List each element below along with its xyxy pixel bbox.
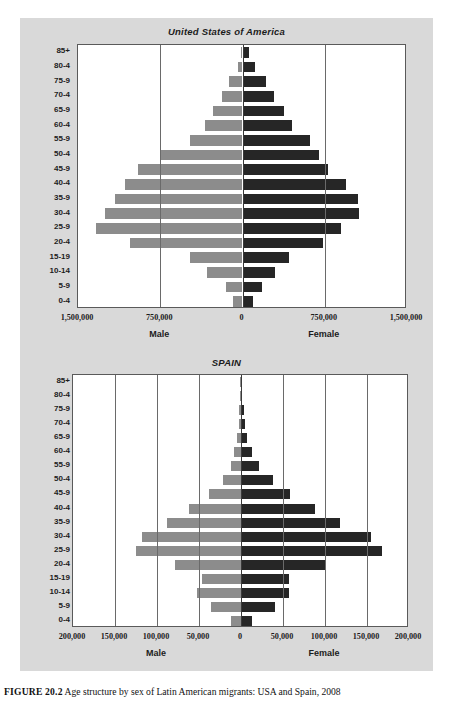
pyramid-row bbox=[78, 62, 405, 73]
value-tick-label: 150,000 bbox=[353, 632, 380, 641]
pyramid-row bbox=[73, 489, 407, 499]
pyramid-row bbox=[73, 574, 407, 584]
age-group-label: 75-9 bbox=[54, 405, 70, 413]
female-bar bbox=[243, 164, 329, 175]
female-bar bbox=[243, 238, 323, 249]
spain-sex-legend: MaleFemale bbox=[72, 648, 408, 662]
female-bar bbox=[241, 574, 289, 584]
female-bar bbox=[243, 106, 285, 117]
female-bar bbox=[243, 120, 292, 131]
male-legend-label: Male bbox=[149, 329, 169, 339]
age-group-label: 70-4 bbox=[54, 419, 70, 427]
male-bar bbox=[213, 106, 242, 117]
male-bar bbox=[231, 461, 241, 471]
pyramid-row bbox=[78, 208, 405, 219]
female-bar bbox=[243, 62, 255, 73]
spain-bar-rows bbox=[73, 375, 407, 626]
age-group-label: 60-4 bbox=[54, 447, 70, 455]
male-bar bbox=[231, 616, 241, 626]
age-group-label: 40-4 bbox=[54, 504, 70, 512]
female-bar bbox=[243, 296, 253, 307]
pyramid-row bbox=[78, 252, 405, 263]
usa-pyramid-chart: United States of America 85+80-475-970-4… bbox=[20, 18, 433, 352]
value-tick-label: 0 bbox=[239, 313, 243, 322]
male-bar bbox=[211, 602, 241, 612]
age-group-label: 85+ bbox=[56, 47, 70, 55]
female-bar bbox=[241, 546, 382, 556]
gridline bbox=[367, 375, 368, 626]
value-tick-label: 0 bbox=[238, 632, 242, 641]
age-group-label: 20-4 bbox=[54, 238, 70, 246]
value-tick-label: 100,000 bbox=[143, 632, 170, 641]
male-bar bbox=[125, 179, 242, 190]
spain-pyramid-chart: SPAIN 85+80-475-970-465-960-455-950-445-… bbox=[20, 352, 433, 671]
pyramid-row bbox=[78, 194, 405, 205]
pyramid-row bbox=[78, 282, 405, 293]
gridline bbox=[325, 45, 326, 307]
female-bar bbox=[243, 91, 275, 102]
pyramid-row bbox=[78, 106, 405, 117]
age-group-label: 55-9 bbox=[54, 461, 70, 469]
male-bar bbox=[207, 267, 242, 278]
pyramid-row bbox=[73, 391, 407, 401]
age-group-label: 55-9 bbox=[54, 135, 70, 143]
male-bar bbox=[136, 546, 241, 556]
female-bar bbox=[243, 76, 266, 87]
figure-caption: FIGURE 20.2 Age structure by sex of Lati… bbox=[4, 686, 454, 697]
pyramid-row bbox=[73, 518, 407, 528]
pyramid-row bbox=[73, 419, 407, 429]
pyramid-row bbox=[78, 223, 405, 234]
zero-axis-line bbox=[241, 375, 242, 626]
pyramid-row bbox=[78, 47, 405, 58]
female-bar bbox=[243, 179, 346, 190]
age-group-label: 65-9 bbox=[54, 106, 70, 114]
age-group-label: 15-19 bbox=[50, 574, 70, 582]
value-tick-label: 200,000 bbox=[59, 632, 86, 641]
female-bar bbox=[243, 267, 276, 278]
pyramid-row bbox=[73, 546, 407, 556]
pyramid-row bbox=[73, 560, 407, 570]
value-tick-label: 750,000 bbox=[146, 313, 173, 322]
spain-plot-area bbox=[72, 374, 408, 627]
male-bar bbox=[189, 504, 241, 514]
age-group-label: 50-4 bbox=[54, 150, 70, 158]
age-group-label: 15-19 bbox=[50, 253, 70, 261]
female-bar bbox=[243, 223, 342, 234]
pyramid-row bbox=[73, 588, 407, 598]
age-group-label: 50-4 bbox=[54, 475, 70, 483]
male-bar bbox=[190, 252, 243, 263]
usa-bar-rows bbox=[78, 45, 405, 307]
male-bar bbox=[161, 150, 242, 161]
value-tick-label: 750,000 bbox=[310, 313, 337, 322]
pyramid-row bbox=[73, 602, 407, 612]
value-tick-label: 200,000 bbox=[395, 632, 422, 641]
zero-axis-line bbox=[243, 45, 244, 307]
value-tick-label: 150,000 bbox=[101, 632, 128, 641]
gridline bbox=[157, 375, 158, 626]
female-bar bbox=[241, 616, 252, 626]
pyramid-row bbox=[78, 296, 405, 307]
female-legend-label: Female bbox=[308, 648, 339, 658]
gridline bbox=[160, 45, 161, 307]
male-legend-label: Male bbox=[146, 648, 166, 658]
pyramid-row bbox=[73, 433, 407, 443]
male-bar bbox=[226, 282, 242, 293]
male-bar bbox=[233, 296, 242, 307]
pyramid-row bbox=[73, 447, 407, 457]
spain-chart-title: SPAIN bbox=[20, 357, 433, 368]
pyramid-row bbox=[73, 504, 407, 514]
female-bar bbox=[241, 461, 259, 471]
age-group-label: 30-4 bbox=[54, 532, 70, 540]
age-group-label: 70-4 bbox=[54, 91, 70, 99]
female-bar bbox=[241, 475, 273, 485]
male-bar bbox=[175, 560, 241, 570]
usa-value-axis-labels: 1,500,000750,0000750,0001,500,000 bbox=[77, 313, 406, 327]
female-bar bbox=[243, 252, 289, 263]
pyramid-row bbox=[78, 76, 405, 87]
female-bar bbox=[241, 588, 289, 598]
age-group-label: 85+ bbox=[56, 377, 70, 385]
age-group-label: 40-4 bbox=[54, 179, 70, 187]
pyramid-row bbox=[78, 179, 405, 190]
value-tick-label: 1,500,000 bbox=[390, 313, 423, 322]
female-bar bbox=[243, 135, 311, 146]
